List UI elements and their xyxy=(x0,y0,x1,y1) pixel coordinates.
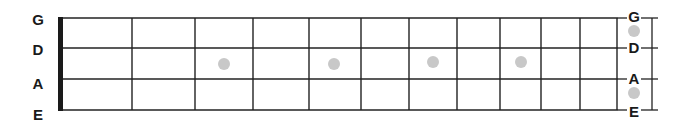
inlay-dot xyxy=(218,58,230,70)
string-label-left: A xyxy=(33,75,44,92)
inlay-dot xyxy=(427,56,439,68)
string-label-right: A xyxy=(629,70,640,87)
frets xyxy=(132,18,617,110)
string-label-right: G xyxy=(628,8,640,25)
right-side-legend: GDAE xyxy=(618,8,658,120)
inlay-dots xyxy=(218,56,527,70)
left-string-labels: GDAE xyxy=(32,11,44,123)
side-dot xyxy=(628,87,640,99)
nut xyxy=(58,17,63,111)
side-dot xyxy=(628,25,640,37)
string-label-left: D xyxy=(33,41,44,58)
inlay-dot xyxy=(328,58,340,70)
string-label-right: D xyxy=(629,39,640,56)
inlay-dot xyxy=(515,56,527,68)
string-label-left: E xyxy=(33,106,43,123)
fretboard-diagram: GDAE GDAE xyxy=(0,0,690,126)
string-label-right: E xyxy=(629,103,639,120)
string-label-left: G xyxy=(32,11,44,28)
